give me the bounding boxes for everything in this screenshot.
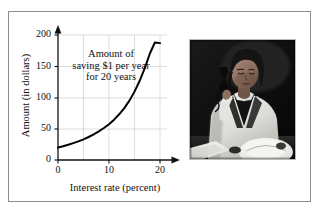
y-axis-title: Amount (in dollars)	[20, 36, 31, 156]
textbook-figure-frame: 0 50 100 150 200 0 10 20 Interest rate (…	[8, 11, 311, 202]
x-tick-label-10: 10	[98, 164, 120, 175]
y-axis-arrowhead	[55, 25, 62, 34]
annotation-line-3: for 20 years	[63, 71, 159, 83]
x-tick-label-20: 20	[149, 164, 171, 175]
x-axis-arrowhead	[172, 157, 181, 164]
annotation-line-1: Amount of	[63, 48, 159, 60]
chart-annotation: Amount of saving $1 per year for 20 year…	[63, 48, 159, 83]
photograph-image	[190, 40, 295, 159]
photograph	[189, 39, 296, 160]
x-axis-title: Interest rate (percent)	[45, 182, 185, 193]
interest-rate-growth-chart: 0 50 100 150 200 0 10 20 Interest rate (…	[9, 12, 189, 203]
annotation-line-2: saving $1 per year	[63, 60, 159, 72]
x-tick-label-0: 0	[47, 164, 69, 175]
